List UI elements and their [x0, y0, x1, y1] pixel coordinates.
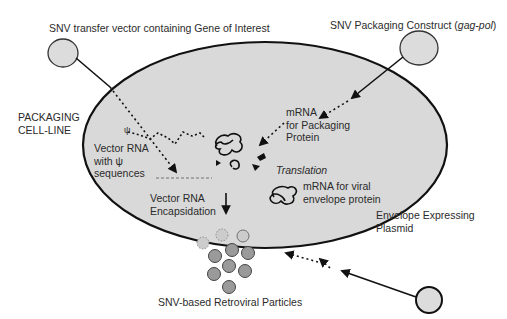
label-vector-rna: Vector RNA with ψ sequences: [94, 142, 149, 180]
label-cell-line-1: PACKAGING: [18, 111, 80, 124]
label-mrna-packaging-2: for Packaging: [286, 119, 350, 132]
envelope-plasmid: [416, 287, 442, 313]
label-cell-line-2: CELL-LINE: [18, 124, 80, 137]
label-transfer-vector: SNV transfer vector containing Gene of I…: [49, 22, 270, 35]
envelope-entry-dotted-arrow: [320, 259, 330, 268]
label-psi: ψ: [124, 124, 130, 137]
label-packaging-construct-italic: gag-pol: [458, 19, 493, 31]
label-vector-rna-2: with ψ: [94, 155, 149, 168]
label-cell-line: PACKAGING CELL-LINE: [18, 111, 80, 136]
transfer-vector-plasmid: [48, 39, 78, 67]
label-mrna-packaging-1: mRNA: [286, 106, 350, 119]
label-packaging-construct: SNV Packaging Construct (gag-pol): [330, 19, 496, 32]
packaging-construct-plasmid: [400, 31, 438, 65]
label-vector-rna-1: Vector RNA: [94, 142, 149, 155]
label-envelope-plasmid-2: Plasmid: [376, 222, 475, 235]
label-packaging-construct-suffix: ): [493, 19, 497, 31]
label-mrna-packaging-3: Protein: [286, 131, 350, 144]
envelope-plasmid-arrow: [342, 271, 416, 297]
label-encapsidation-2: Encapsidation: [150, 205, 216, 218]
label-encapsidation-1: Vector RNA: [150, 192, 216, 205]
transfer-vector-arrow: [76, 58, 110, 87]
label-envelope-plasmid: Envelope Expressing Plasmid: [376, 209, 475, 234]
label-mrna-packaging: mRNA for Packaging Protein: [286, 106, 350, 144]
label-mrna-envelope: mRNA for viral envelope protein: [303, 180, 381, 205]
label-packaging-construct-prefix: SNV Packaging Construct (: [330, 19, 458, 31]
retroviral-packaging-diagram: [0, 0, 507, 319]
label-particles: SNV-based Retroviral Particles: [158, 296, 302, 309]
retroviral-particles: [197, 229, 255, 294]
label-encapsidation: Vector RNA Encapsidation: [150, 192, 216, 217]
label-mrna-envelope-2: envelope protein: [303, 193, 381, 206]
label-translation: Translation: [276, 164, 327, 177]
envelope-mrna-dotted-arrow: [286, 253, 318, 262]
label-translation-text: Translation: [276, 164, 327, 176]
label-envelope-plasmid-1: Envelope Expressing: [376, 209, 475, 222]
label-mrna-envelope-1: mRNA for viral: [303, 180, 381, 193]
label-vector-rna-3: sequences: [94, 167, 149, 180]
